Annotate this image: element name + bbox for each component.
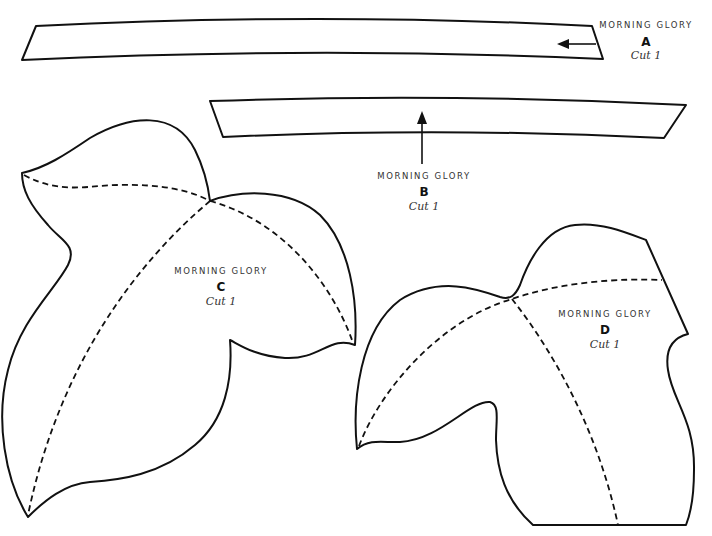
piece-d-outline xyxy=(356,224,694,525)
piece-b-label: MORNING GLORY B Cut 1 xyxy=(366,172,482,212)
piece-c-letter: C xyxy=(163,281,279,293)
piece-c-outline xyxy=(2,120,355,517)
piece-c-title: MORNING GLORY xyxy=(163,267,279,276)
piece-b-letter: B xyxy=(366,186,482,198)
piece-d-instruction: Cut 1 xyxy=(547,339,663,350)
piece-d-letter: D xyxy=(547,324,663,336)
piece-a-outline xyxy=(22,19,603,60)
piece-a-label: MORNING GLORY A Cut 1 xyxy=(590,21,702,61)
piece-b-instruction: Cut 1 xyxy=(366,201,482,212)
piece-d-title: MORNING GLORY xyxy=(547,310,663,319)
piece-c-instruction: Cut 1 xyxy=(163,296,279,307)
piece-a-title: MORNING GLORY xyxy=(590,21,702,30)
piece-d-label: MORNING GLORY D Cut 1 xyxy=(547,310,663,350)
piece-a-letter: A xyxy=(590,36,702,48)
piece-c-label: MORNING GLORY C Cut 1 xyxy=(163,267,279,307)
piece-b-outline xyxy=(210,98,686,164)
piece-b-title: MORNING GLORY xyxy=(366,172,482,181)
piece-a-instruction: Cut 1 xyxy=(590,50,702,61)
pattern-sheet xyxy=(0,0,712,536)
